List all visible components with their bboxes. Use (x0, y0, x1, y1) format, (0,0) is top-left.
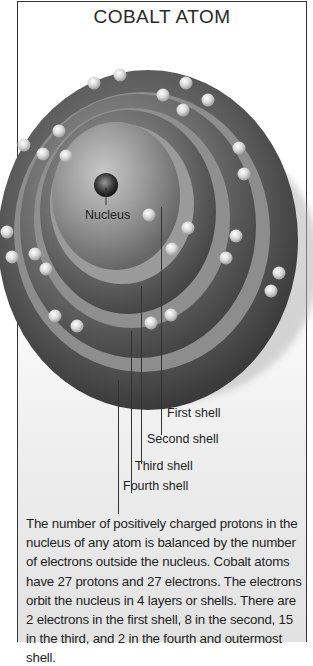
electron-icon (230, 230, 243, 243)
electron-icon (165, 309, 178, 322)
electron-icon (145, 317, 158, 330)
electron-icon (202, 94, 215, 107)
electron-icon (88, 77, 101, 90)
first-shell-pointer (161, 207, 162, 435)
fourth-shell-pointer (118, 380, 119, 514)
electron-icon (60, 150, 73, 163)
third-shell-label: Third shell (135, 459, 193, 473)
electron-icon (18, 139, 31, 152)
electron-icon (6, 251, 19, 264)
description-text: The number of positively charged protons… (26, 514, 306, 666)
electron-icon (29, 248, 42, 261)
third-shell-pointer (131, 331, 132, 493)
electron-icon (37, 148, 50, 161)
electron-icon (114, 69, 127, 82)
electron-icon (157, 89, 170, 102)
electron-icon (182, 222, 195, 235)
second-shell-pointer (141, 286, 142, 464)
electron-icon (49, 310, 62, 323)
electron-icon (273, 267, 286, 280)
electron-icon (1, 226, 14, 239)
electron-icon (177, 104, 190, 117)
nucleus-label: Nucleus (85, 208, 130, 222)
electron-icon (220, 252, 233, 265)
electron-icon (265, 285, 278, 298)
electron-icon (53, 125, 66, 138)
electron-icon (40, 263, 53, 276)
electron-icon (166, 243, 179, 256)
electron-icon (71, 320, 84, 333)
first-shell-label: First shell (167, 406, 220, 420)
second-shell-label: Second shell (147, 432, 219, 446)
electron-icon (233, 142, 246, 155)
fourth-shell-label: Fourth shell (123, 479, 188, 493)
electron-icon (143, 209, 156, 222)
electron-icon (180, 77, 193, 90)
electron-icon (238, 168, 251, 181)
